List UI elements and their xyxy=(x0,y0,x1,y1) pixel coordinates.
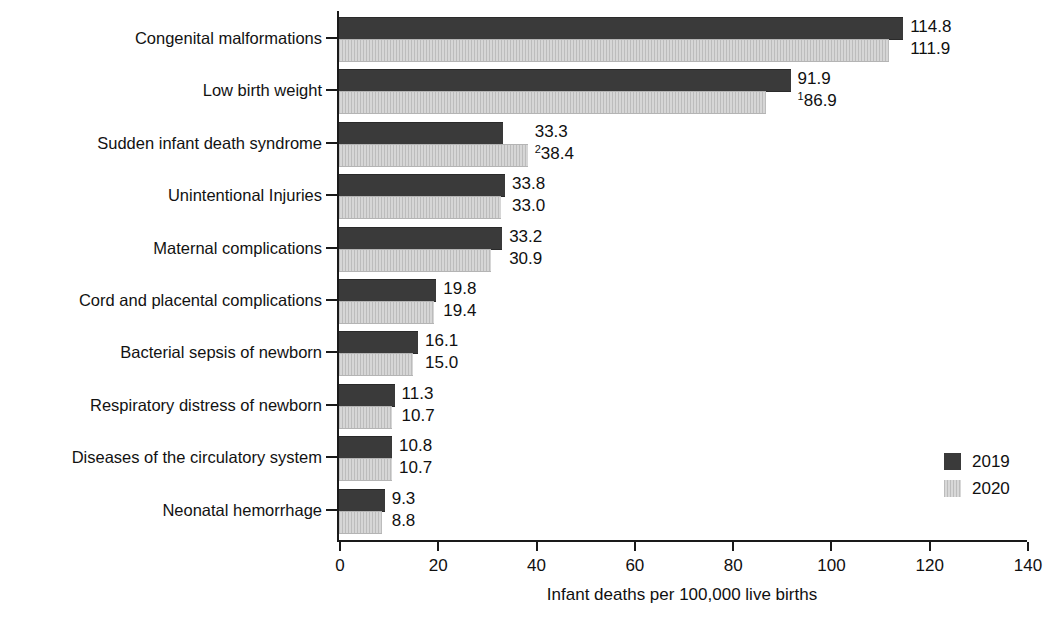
bar-2019[interactable] xyxy=(339,227,502,250)
footnote-marker: 1 xyxy=(798,90,804,102)
bar-2020[interactable] xyxy=(339,406,392,429)
category-label: Respiratory distress of newborn xyxy=(22,395,322,415)
bar-value-label-2020: 19.4 xyxy=(443,302,476,320)
bar-value-label-2019: 9.3 xyxy=(392,490,416,508)
bar-value-label-2019: 16.1 xyxy=(425,332,458,350)
category-row: Maternal complications33.230.9 xyxy=(0,226,1062,278)
legend-item-2020[interactable]: 2020 xyxy=(944,475,1010,502)
bar-2019[interactable] xyxy=(339,384,395,407)
bar-value-label-2020: 111.9 xyxy=(910,40,950,58)
category-label: Low birth weight xyxy=(22,80,322,100)
x-axis-tick-label: 40 xyxy=(507,556,567,576)
bar-value-label-2019: 33.8 xyxy=(512,175,545,193)
bar-value-label-2020: 33.0 xyxy=(512,197,545,215)
x-axis-tick xyxy=(929,542,931,551)
bar-2019[interactable] xyxy=(339,69,791,92)
x-axis-tick-label: 60 xyxy=(605,556,665,576)
footnote-marker: 2 xyxy=(535,143,541,155)
bar-value-label-2019: 33.2 xyxy=(509,228,542,246)
category-tick xyxy=(326,404,338,406)
bar-2020[interactable] xyxy=(339,144,528,167)
category-row: Neonatal hemorrhage9.38.8 xyxy=(0,488,1062,540)
category-tick xyxy=(326,89,338,91)
infant-mortality-bar-chart: Congenital malformations114.8111.9Low bi… xyxy=(0,0,1062,623)
dark-solid-swatch xyxy=(944,453,961,470)
x-axis-tick-label: 120 xyxy=(900,556,960,576)
category-label: Cord and placental complications xyxy=(22,290,322,310)
category-tick xyxy=(326,351,338,353)
bar-value-label-2020: 238.4 xyxy=(535,145,574,163)
x-axis-tick-label: 20 xyxy=(408,556,468,576)
category-row: Sudden infant death syndrome33.3238.4 xyxy=(0,121,1062,173)
chart-legend: 2019 2020 xyxy=(944,448,1010,502)
bar-2020[interactable] xyxy=(339,91,766,114)
bar-2020[interactable] xyxy=(339,249,491,272)
category-tick xyxy=(326,456,338,458)
x-axis-tick xyxy=(339,542,341,551)
category-row: Congenital malformations114.8111.9 xyxy=(0,16,1062,68)
category-tick xyxy=(326,37,338,39)
plot-area: Congenital malformations114.8111.9Low bi… xyxy=(0,0,1062,623)
bar-2019[interactable] xyxy=(339,436,392,459)
x-axis-tick xyxy=(732,542,734,551)
category-row: Bacterial sepsis of newborn16.115.0 xyxy=(0,330,1062,382)
x-axis-tick-label: 0 xyxy=(310,556,370,576)
bar-value-label-2019: 33.3 xyxy=(535,123,568,141)
bar-2019[interactable] xyxy=(339,122,503,145)
bar-value-label-2019: 10.8 xyxy=(399,437,432,455)
bar-2020[interactable] xyxy=(339,196,501,219)
category-tick xyxy=(326,194,338,196)
category-label: Sudden infant death syndrome xyxy=(22,133,322,153)
legend-item-2019[interactable]: 2019 xyxy=(944,448,1010,475)
category-tick xyxy=(326,247,338,249)
category-tick xyxy=(326,142,338,144)
category-row: Diseases of the circulatory system10.810… xyxy=(0,435,1062,487)
category-label: Diseases of the circulatory system xyxy=(22,447,322,467)
x-axis-tick xyxy=(1027,542,1029,551)
x-axis-line xyxy=(337,540,1027,542)
category-row: Low birth weight91.9186.9 xyxy=(0,68,1062,120)
category-row: Unintentional Injuries33.833.0 xyxy=(0,173,1062,225)
bar-value-label-2020: 10.7 xyxy=(399,459,432,477)
bar-value-label-2020: 186.9 xyxy=(798,92,837,110)
bar-2019[interactable] xyxy=(339,17,903,40)
bar-value-label-2020: 8.8 xyxy=(392,512,416,530)
bar-2020[interactable] xyxy=(339,301,434,324)
bar-value-label-2020: 10.7 xyxy=(402,407,435,425)
x-axis-title: Infant deaths per 100,000 live births xyxy=(337,585,1027,605)
x-axis-tick xyxy=(536,542,538,551)
category-label: Congenital malformations xyxy=(22,28,322,48)
bar-2020[interactable] xyxy=(339,353,413,376)
x-axis-tick xyxy=(634,542,636,551)
bar-value-label-2019: 19.8 xyxy=(443,280,476,298)
bar-2019[interactable] xyxy=(339,489,385,512)
x-axis-tick-label: 100 xyxy=(801,556,861,576)
legend-label-2020: 2020 xyxy=(972,479,1010,499)
x-axis-tick-label: 140 xyxy=(998,556,1058,576)
bar-2019[interactable] xyxy=(339,174,505,197)
light-striped-swatch xyxy=(944,480,961,497)
bar-value-label-2019: 114.8 xyxy=(910,18,951,36)
bar-2019[interactable] xyxy=(339,279,436,302)
bar-value-label-2020: 30.9 xyxy=(509,250,542,268)
category-label: Unintentional Injuries xyxy=(22,185,322,205)
category-tick xyxy=(326,509,338,511)
x-axis-tick xyxy=(830,542,832,551)
bar-value-label-2020: 15.0 xyxy=(425,354,458,372)
category-tick xyxy=(326,299,338,301)
bar-2020[interactable] xyxy=(339,458,392,481)
category-row: Cord and placental complications19.819.4 xyxy=(0,278,1062,330)
category-row: Respiratory distress of newborn11.310.7 xyxy=(0,383,1062,435)
bar-value-label-2019: 11.3 xyxy=(402,385,434,403)
x-axis-tick-label: 80 xyxy=(703,556,763,576)
bar-2019[interactable] xyxy=(339,331,418,354)
bar-2020[interactable] xyxy=(339,39,889,62)
bar-value-label-2019: 91.9 xyxy=(798,70,831,88)
category-label: Neonatal hemorrhage xyxy=(22,500,322,520)
legend-label-2019: 2019 xyxy=(972,452,1010,472)
bar-2020[interactable] xyxy=(339,511,382,534)
category-label: Bacterial sepsis of newborn xyxy=(22,342,322,362)
category-label: Maternal complications xyxy=(22,238,322,258)
x-axis-tick xyxy=(437,542,439,551)
